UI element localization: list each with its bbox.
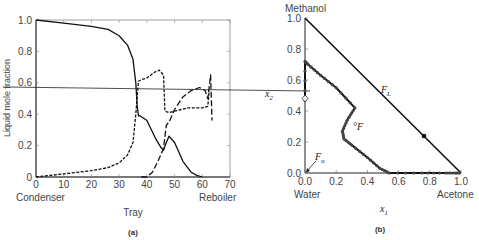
x-tick-label: 60 [197, 179, 209, 190]
x-tick-label: 0.2 [329, 176, 343, 187]
profile-marker [362, 153, 365, 156]
series-water [141, 75, 212, 177]
panel-b-caption: (b) [375, 225, 386, 234]
panel-a: 01020304050607000.20.40.60.81.0 Liquid m… [2, 15, 237, 238]
x-tick-label: 40 [141, 179, 153, 190]
profile-marker [351, 109, 354, 112]
y-tick-label: 1.0 [287, 13, 301, 24]
y-tick-label: 0.8 [287, 44, 301, 55]
fu-label-sub: u [321, 157, 325, 165]
profile-marker [339, 91, 342, 94]
profile-marker [303, 69, 306, 72]
x1-label-sub: 1 [384, 209, 388, 217]
profile-marker [375, 164, 378, 167]
x-tick-label: 30 [114, 179, 126, 190]
profile-marker [349, 113, 352, 116]
profile-marker [349, 101, 352, 104]
fl-marker [422, 134, 427, 139]
panel-a-caption: (a) [128, 228, 138, 237]
y-tick-label: 0.8 [18, 46, 32, 57]
profile-marker [366, 156, 369, 159]
panel-a-tick-labels: 01020304050607000.20.40.60.81.0 [18, 15, 236, 191]
profile-marker [316, 71, 319, 74]
y-tick-label: 0.6 [18, 77, 32, 88]
profile-marker [388, 171, 391, 174]
panel-a-frame [36, 20, 230, 177]
x-tick-label: 0.4 [360, 176, 374, 187]
x-tick-label: 20 [86, 179, 98, 190]
profile-marker [319, 74, 322, 77]
y-tick-label: 0.6 [287, 75, 301, 86]
fl-label: FL [380, 84, 391, 98]
profile-marker [432, 171, 435, 174]
y-tick-label: 0 [26, 172, 32, 183]
panel-b: 0.00.20.40.60.81.00.00.20.40.60.81.0 Met… [264, 3, 474, 234]
series-acetone [36, 20, 202, 177]
profile-marker [327, 80, 330, 83]
open-diamond-marker [302, 95, 308, 102]
x2-label-sub: 2 [269, 94, 273, 102]
x-tick-label: 0 [33, 179, 39, 190]
panel-a-condenser-label: Condenser [16, 192, 66, 203]
profile-marker [426, 171, 429, 174]
profile-marker [303, 79, 306, 82]
water-label: Water [294, 189, 321, 200]
profile-marker [347, 116, 350, 119]
profile-marker [335, 86, 338, 89]
profile-marker [353, 106, 356, 109]
profile-marker [307, 63, 310, 66]
profile-marker [323, 77, 326, 80]
y-tick-label: 0.4 [287, 106, 301, 117]
acetone-label: Acetone [437, 189, 474, 200]
methanol-label: Methanol [285, 3, 326, 14]
profile-marker [313, 68, 316, 71]
profile-marker [404, 171, 407, 174]
y-tick-label: 0.0 [287, 168, 301, 179]
x-tick-label: 50 [169, 179, 181, 190]
x-tick-label: 70 [224, 179, 236, 190]
profile-marker [354, 147, 357, 150]
x-tick-label: 0.6 [392, 176, 406, 187]
y-tick-label: 0.2 [287, 137, 301, 148]
x-tick-label: 0.8 [423, 176, 437, 187]
panel-a-series [36, 20, 212, 177]
profile-marker [303, 89, 306, 92]
x2-label: x2 [264, 88, 273, 102]
profile-marker [331, 83, 334, 86]
panel-a-ticks [36, 20, 230, 177]
f-label: °F [353, 121, 364, 132]
profile-marker [458, 171, 461, 174]
profile-marker [396, 171, 399, 174]
x1-label: x1 [379, 203, 388, 217]
profile-marker [372, 161, 375, 164]
figure: 01020304050607000.20.40.60.81.0 Liquid m… [0, 0, 479, 240]
profile-marker [438, 171, 441, 174]
profile-marker [358, 150, 361, 153]
y-tick-label: 0.4 [18, 109, 32, 120]
profile-marker [420, 171, 423, 174]
panel-a-reboiler-label: Reboiler [199, 192, 237, 203]
panel-b-hypotenuse [305, 18, 461, 173]
panel-b-profile [303, 60, 461, 175]
profile-marker [350, 144, 353, 147]
x-tick-label: 10 [58, 179, 70, 190]
profile-marker [412, 171, 415, 174]
fu-label: Fu [314, 151, 325, 165]
profile-marker [310, 66, 313, 69]
y-tick-label: 1.0 [18, 15, 32, 26]
y-tick-label: 0.2 [18, 140, 32, 151]
profile-marker [369, 159, 372, 162]
x-tick-label: 1.0 [454, 176, 468, 187]
profile-marker [344, 96, 347, 99]
panel-a-ylabel: Liquid mole fraction [2, 59, 12, 137]
fl-label-sub: L [386, 90, 391, 98]
composition-profile-line [305, 61, 461, 173]
panel-a-xlabel: Tray [123, 207, 143, 218]
